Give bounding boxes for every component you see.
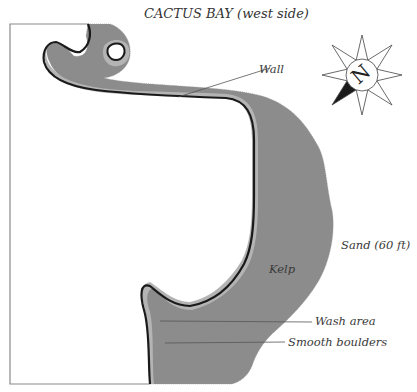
label-kelp: Kelp	[269, 264, 295, 276]
label-wash-area: Wash area	[315, 316, 376, 328]
map-graphic	[0, 0, 417, 392]
kelp-area	[47, 24, 334, 384]
island-rock	[107, 44, 124, 61]
label-wall: Wall	[259, 64, 284, 76]
dive-site-map: CACTUS BAY (west side) N Wall Sand (60 f…	[0, 0, 417, 392]
map-title: CACTUS BAY (west side)	[144, 7, 309, 20]
label-sand: Sand (60 ft)	[341, 240, 410, 252]
label-smooth-boulders: Smooth boulders	[288, 337, 387, 349]
